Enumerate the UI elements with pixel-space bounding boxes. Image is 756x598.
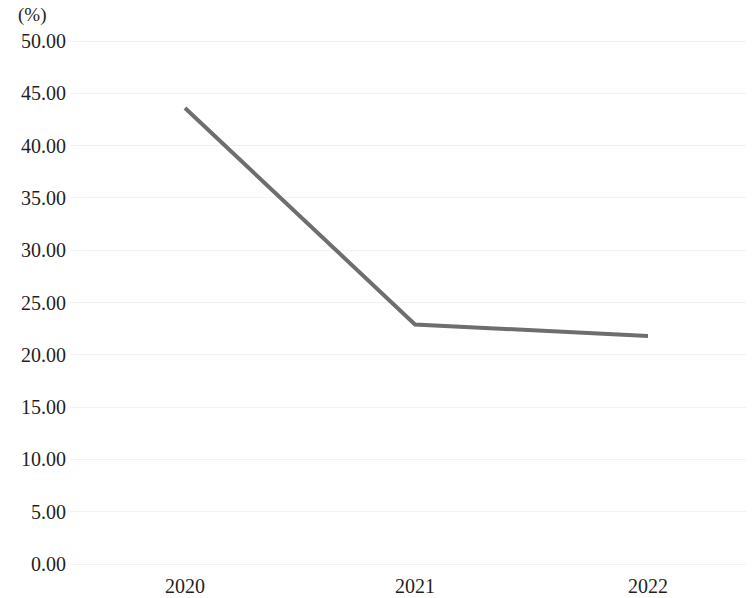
- y-axis-tick: 45.00: [0, 82, 66, 104]
- line-chart: (%) 0.005.0010.0015.0020.0025.0030.0035.…: [0, 0, 756, 598]
- x-axis-tick-label: 2020: [125, 574, 245, 598]
- gridline: [70, 197, 746, 198]
- y-axis-tick: 10.00: [0, 448, 66, 470]
- y-axis-tick: 40.00: [0, 135, 66, 157]
- gridline: [70, 354, 746, 355]
- y-axis-tick: 15.00: [0, 396, 66, 418]
- y-axis-tick-label: 25.00: [2, 292, 66, 314]
- y-axis-tick-label: 20.00: [2, 344, 66, 366]
- gridline: [70, 459, 746, 460]
- y-axis-tick: 35.00: [0, 187, 66, 209]
- y-axis-tick: 50.00: [0, 30, 66, 52]
- y-axis-tick: 5.00: [0, 501, 66, 523]
- y-axis-tick-label: 0.00: [2, 553, 66, 575]
- y-axis-tick-label: 10.00: [2, 448, 66, 470]
- y-axis-tick: 20.00: [0, 344, 66, 366]
- y-axis-tick-label: 5.00: [2, 501, 66, 523]
- x-axis-tick-label: 2021: [355, 574, 475, 598]
- y-axis-unit-label: (%): [18, 4, 46, 26]
- y-axis-tick: 30.00: [0, 239, 66, 261]
- plot-area: [0, 0, 756, 598]
- y-axis-tick-label: 45.00: [2, 82, 66, 104]
- x-axis-tick-label: 2022: [588, 574, 708, 598]
- y-axis-tick-label: 50.00: [2, 30, 66, 52]
- y-axis-tick-label: 30.00: [2, 239, 66, 261]
- gridline: [70, 564, 746, 565]
- y-axis-tick-label: 15.00: [2, 396, 66, 418]
- y-axis-tick: 0.00: [0, 553, 66, 575]
- gridline: [70, 511, 746, 512]
- y-axis-tick: 25.00: [0, 292, 66, 314]
- gridline: [70, 41, 746, 42]
- y-axis-tick-label: 40.00: [2, 135, 66, 157]
- gridline: [70, 250, 746, 251]
- gridline: [70, 302, 746, 303]
- gridline: [70, 145, 746, 146]
- y-axis-tick-label: 35.00: [2, 187, 66, 209]
- gridline: [70, 93, 746, 94]
- gridline: [70, 407, 746, 408]
